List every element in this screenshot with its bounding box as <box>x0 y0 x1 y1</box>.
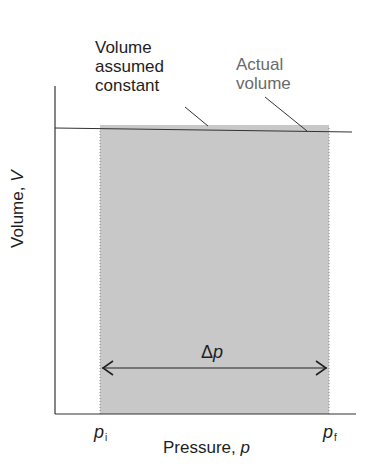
shaded-region <box>100 125 329 414</box>
assumed-line-3: constant <box>95 76 164 95</box>
pf-subscript: f <box>334 432 337 443</box>
pi-symbol: p <box>94 422 104 442</box>
y-axis-symbol: V <box>8 171 27 182</box>
pi-subscript: i <box>105 432 107 443</box>
pf-label: pf <box>323 423 337 447</box>
delta-var: p <box>213 342 223 362</box>
delta-symbol: Δ <box>201 342 213 362</box>
assumed-constant-label: Volume assumed constant <box>95 38 164 95</box>
x-axis-label-text: Pressure, <box>163 438 240 457</box>
delta-p-label: Δp <box>201 343 223 362</box>
assumed-line-1: Volume <box>95 38 164 57</box>
actual-volume-label: Actual volume <box>236 55 291 93</box>
pf-symbol: p <box>323 422 333 442</box>
x-axis-symbol: p <box>240 438 249 457</box>
y-axis-label: Volume, V <box>8 171 28 249</box>
actual-line-1: Actual <box>236 55 291 74</box>
assumed-line-2: assumed <box>95 57 164 76</box>
y-axis-label-text: Volume, <box>8 182 27 248</box>
assumed-leader-line <box>185 107 208 126</box>
x-axis-label: Pressure, p <box>163 438 250 457</box>
pi-label: pi <box>94 423 107 447</box>
actual-line-2: volume <box>236 74 291 93</box>
diagram-canvas <box>0 0 381 469</box>
